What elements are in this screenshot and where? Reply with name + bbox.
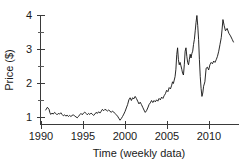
x-axis-title: Time (weekly data) [93,147,186,159]
y-tick-label-2: 2 [26,77,32,89]
y-tick-label-1: 1 [26,111,32,123]
y-tick-label-4: 4 [26,9,32,21]
y-axis-title: Price ($) [3,49,15,91]
price-series-line [46,16,234,121]
x-tick-label-2000: 2000 [113,130,137,142]
price-time-line-chart: 1 2 3 4 1990 1995 2000 2005 2010 Time (w… [0,0,243,162]
x-tick-label-2010: 2010 [197,130,221,142]
chart-figure: 1 2 3 4 1990 1995 2000 2005 2010 Time (w… [0,0,243,162]
x-tick-label-2005: 2005 [155,130,179,142]
y-tick-label-3: 3 [26,43,32,55]
x-tick-label-1995: 1995 [71,130,95,142]
x-tick-label-1990: 1990 [29,130,53,142]
